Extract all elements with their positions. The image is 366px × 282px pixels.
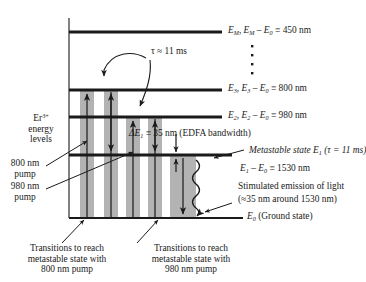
leader-caption-800: [62, 220, 84, 243]
ion-label-line2: energy: [16, 124, 66, 135]
arrow-tau-to-E2: [140, 60, 150, 106]
metastable-annotation: Metastable state E1 (τ = 11 ms): [249, 145, 366, 157]
stimulated-emission-line1: Stimulated emission of light: [238, 181, 344, 192]
stimulated-emission-line2: (≈35 nm around 1530 nm): [238, 194, 337, 205]
level-label-E0: E0 (Ground state): [247, 211, 313, 223]
ion-label: Er3+ energy levels: [16, 113, 66, 145]
leader-caption-980: [137, 220, 158, 243]
ellipsis-dot-4: [251, 72, 253, 74]
ion-label-line3: levels: [16, 134, 66, 145]
level-label-E3: E3, E3 – E0 ≡ 800 nm: [228, 83, 307, 95]
level-label-EM-text: EM, EM – E0 ≡ 450 nm: [228, 25, 311, 35]
tau-annotation: τ ≈ 11 ms: [151, 46, 187, 57]
leader-stimulated: [205, 203, 232, 212]
pump-800-label: 800 nm pump: [2, 158, 48, 179]
level-label-E1: E1 – E0 ≡ 1530 nm: [240, 163, 310, 175]
ellipsis-dot-1: [251, 45, 253, 47]
pump-980-label: 980 nm pump: [2, 181, 48, 202]
ellipsis-dot-2: [251, 54, 253, 56]
delta-e1-annotation: ΔE1 ≡ 35 nm (EDFA bandwidth): [129, 128, 251, 140]
arrow-tau-to-E3: [104, 54, 146, 76]
caption-980: Transitions to reach metastable state wi…: [132, 243, 250, 275]
level-label-E2: E2, E2 – E0 ≡ 980 nm: [228, 110, 307, 122]
caption-800: Transitions to reach metastable state wi…: [8, 243, 126, 275]
ellipsis-dot-3: [251, 63, 253, 65]
level-label-EM: EM, EM – E0 ≡ 450 nm: [228, 25, 311, 37]
